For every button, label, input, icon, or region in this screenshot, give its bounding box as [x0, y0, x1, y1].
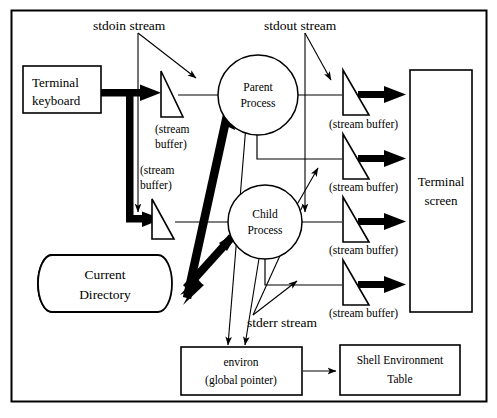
diagram-canvas: stdoin stream stdout stream stderr strea…: [0, 0, 497, 418]
current-directory-label-line1: Current: [84, 267, 125, 282]
child-process-circle[interactable]: [228, 185, 302, 259]
keyboard-bus-vertical: [126, 89, 134, 218]
stdin-stream-label: stdoin stream: [93, 18, 166, 33]
terminal-screen-box[interactable]: [410, 70, 472, 312]
terminal-screen-label-line2: screen: [424, 193, 458, 208]
terminal-screen-label-line1: Terminal: [418, 174, 465, 189]
shell-environment-table-label-line2: Table: [387, 373, 412, 385]
environ-label-line1: environ: [223, 356, 258, 368]
parent-process-circle[interactable]: [218, 55, 298, 135]
parent-process-label-line2: Process: [240, 97, 276, 109]
stdout-stream-label: stdout stream: [264, 18, 337, 33]
current-directory-label-line2: Directory: [79, 287, 131, 302]
terminal-keyboard-label-line2: keyboard: [32, 93, 81, 108]
child-process-label-line1: Child: [252, 208, 278, 220]
parent-stdout-buffer-caption: (stream buffer): [329, 118, 398, 131]
parent-stdin-buffer-caption-line1: (stream: [155, 123, 190, 136]
child-process-label-line2: Process: [247, 224, 283, 236]
terminal-keyboard-label-line1: Terminal: [32, 75, 79, 90]
environ-box[interactable]: [181, 347, 302, 395]
shell-environment-table-box[interactable]: [340, 345, 460, 395]
process-stream-diagram: stdoin stream stdout stream stderr strea…: [0, 0, 497, 418]
child-stdin-buffer-caption-line1: (stream: [140, 164, 175, 177]
parent-stderr-buffer-caption: (stream buffer): [329, 181, 398, 194]
child-stderr-buffer-caption: (stream buffer): [329, 307, 398, 320]
shell-environment-table-label-line1: Shell Environment: [357, 354, 444, 366]
stderr-stream-label: stderr stream: [247, 315, 318, 330]
environ-label-line2: (global pointer): [205, 374, 277, 387]
parent-process-label-line1: Parent: [243, 81, 273, 93]
parent-stdin-buffer-caption-line2: buffer): [155, 138, 187, 151]
child-stdin-buffer-caption-line2: buffer): [140, 179, 172, 192]
current-directory-cylinder[interactable]: [38, 255, 172, 312]
child-stdout-buffer-caption: (stream buffer): [329, 244, 398, 257]
